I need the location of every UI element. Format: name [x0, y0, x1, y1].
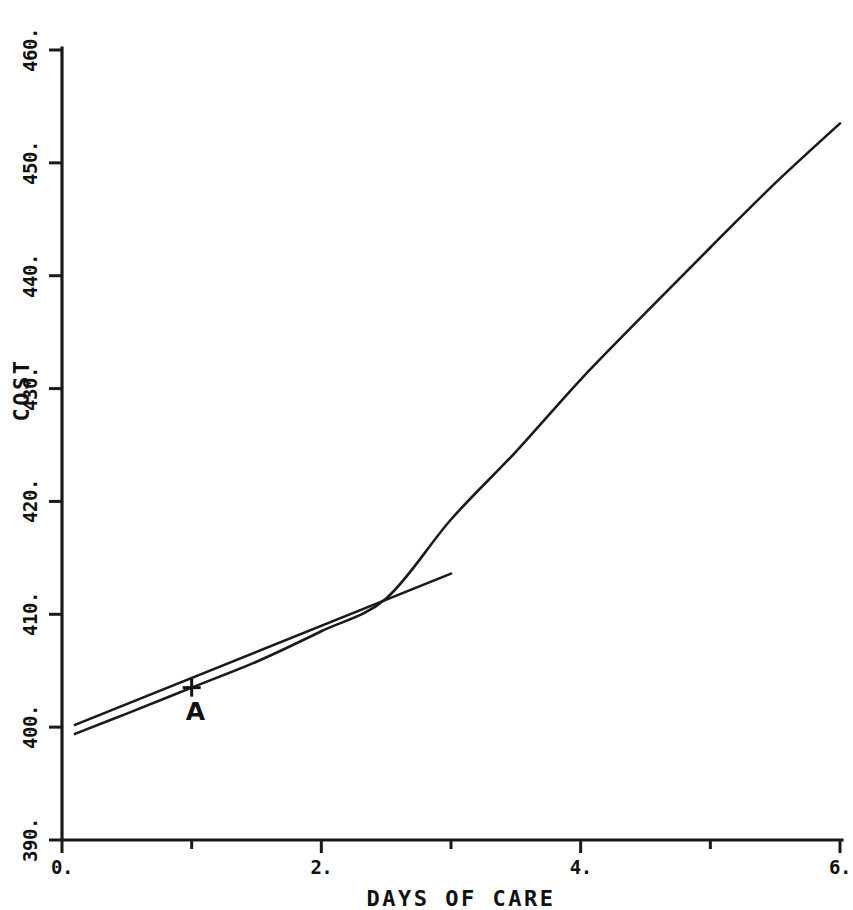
x-tick-label: 6. — [817, 856, 853, 878]
y-tick-label: 400. — [19, 699, 41, 755]
y-tick-label: 440. — [19, 248, 41, 304]
y-tick-label: 410. — [19, 586, 41, 642]
tangent-line — [75, 574, 451, 725]
x-tick-label: 0. — [39, 856, 85, 878]
y-tick-label: 390. — [19, 812, 41, 868]
x-tick-label: 4. — [558, 856, 604, 878]
y-tick-label: 460. — [19, 22, 41, 78]
y-tick-label: 420. — [19, 473, 41, 529]
ticks-group — [49, 50, 840, 853]
x-tick-label: 2. — [298, 856, 344, 878]
x-axis-title: DAYS OF CARE — [261, 886, 661, 910]
point-a-label: A — [186, 697, 205, 726]
y-tick-label: 430. — [19, 361, 41, 417]
cost-curve — [75, 123, 840, 734]
series-group — [75, 123, 840, 734]
axes-group — [62, 48, 842, 840]
y-tick-label: 450. — [19, 135, 41, 191]
